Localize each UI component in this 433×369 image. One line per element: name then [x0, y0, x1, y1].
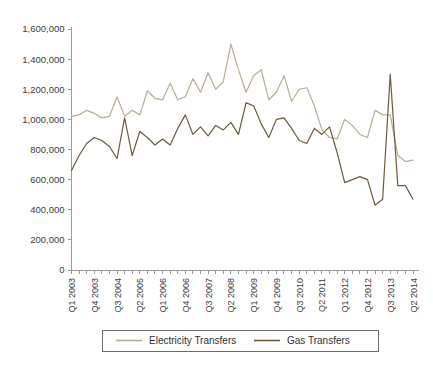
series-line-electricity-transfers: [72, 44, 414, 161]
x-tick-label: Q2 2005: [135, 278, 145, 313]
x-tick-label: Q3 2004: [113, 278, 123, 313]
x-tick-label: Q4 2009: [272, 278, 282, 313]
y-tick-label: 600,000: [30, 174, 64, 185]
y-tick-label: 800,000: [30, 144, 64, 155]
series-line-gas-transfers: [72, 74, 414, 205]
x-tick-label: Q1 2006: [158, 278, 168, 313]
chart-legend: Electricity TransfersGas Transfers: [102, 330, 378, 351]
x-axis-tick-labels: Q1 2003Q4 2003Q3 2004Q2 2005Q1 2006Q4 20…: [67, 278, 419, 313]
legend-label-gas-transfers: Gas Transfers: [287, 335, 350, 346]
line-chart: 0200,000400,000600,000800,0001,000,0001,…: [0, 0, 433, 369]
y-axis-tick-labels: 0200,000400,000600,000800,0001,000,0001,…: [22, 23, 64, 275]
data-series-group: [72, 44, 414, 205]
x-tick-label: Q1 2009: [249, 278, 259, 313]
y-tick-label: 1,200,000: [22, 84, 64, 95]
y-axis-tick-marks: [68, 29, 72, 270]
x-tick-label: Q2 2014: [409, 278, 419, 313]
x-tick-label: Q3 2013: [386, 278, 396, 313]
y-tick-label: 200,000: [30, 234, 64, 245]
y-tick-label: 0: [59, 264, 64, 275]
y-tick-label: 1,400,000: [22, 54, 64, 65]
x-axis-tick-marks: [72, 270, 414, 274]
y-tick-label: 1,600,000: [22, 23, 64, 34]
legend-label-electricity-transfers: Electricity Transfers: [149, 335, 236, 346]
y-tick-label: 1,000,000: [22, 114, 64, 125]
x-tick-label: Q4 2003: [90, 278, 100, 313]
y-tick-label: 400,000: [30, 204, 64, 215]
x-tick-label: Q2 2011: [317, 278, 327, 312]
x-tick-label: Q4 2006: [181, 278, 191, 313]
x-tick-label: Q3 2010: [295, 278, 305, 313]
chart-container: 0200,000400,000600,000800,0001,000,0001,…: [0, 0, 433, 369]
x-tick-label: Q1 2003: [67, 278, 77, 313]
x-tick-label: Q2 2008: [226, 278, 236, 313]
x-tick-label: Q4 2012: [363, 278, 373, 313]
x-tick-label: Q3 2007: [204, 278, 214, 313]
x-tick-label: Q1 2012: [340, 278, 350, 313]
